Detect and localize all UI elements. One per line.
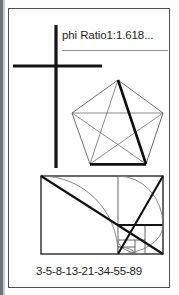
page-title: phi Ratio1:1.618... bbox=[62, 28, 172, 42]
page-root: phi Ratio1:1.618... 3-5-8-13-21-34-55-89 bbox=[0, 0, 179, 295]
fibonacci-caption: 3-5-8-13-21-34-55-89 bbox=[8, 264, 170, 278]
left-edge-strip-highlight bbox=[3, 0, 5, 295]
illustration-card bbox=[8, 8, 170, 288]
